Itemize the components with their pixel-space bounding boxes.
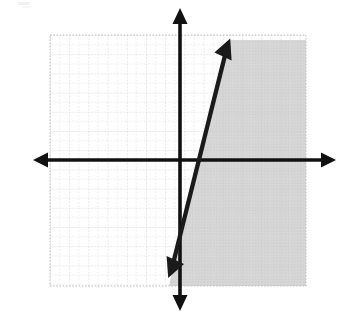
- graph-figure: Graph of a linear inequality with shaded…: [0, 0, 344, 317]
- coordinate-plane-svg: Coordinate plane with a dotted gray grid…: [0, 0, 344, 317]
